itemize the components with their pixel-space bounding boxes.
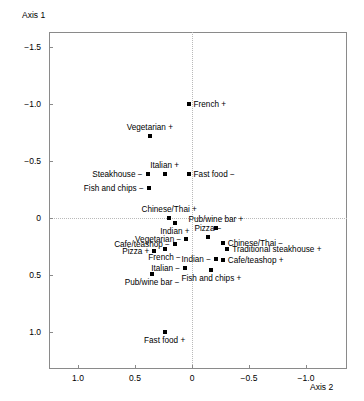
- data-point-marker: [163, 330, 167, 334]
- data-point-marker: [173, 242, 177, 246]
- data-point-marker: [221, 258, 225, 262]
- data-point-label: Fast food −: [194, 169, 235, 178]
- data-point-marker: [147, 186, 151, 190]
- data-point-label: Pub/wine bar +: [189, 215, 244, 224]
- y-tick-label: −1.5: [24, 42, 41, 52]
- data-point-label: Pub/wine bar −: [125, 278, 180, 287]
- y-tick-mark: [49, 275, 53, 276]
- y-tick-label: −0.5: [24, 156, 41, 166]
- plot-area: [49, 32, 347, 369]
- y-tick-mark: [49, 218, 53, 219]
- data-point-marker: [167, 216, 171, 220]
- x-tick-mark: [306, 365, 307, 369]
- data-point-label: Pizza −: [194, 224, 221, 233]
- y-tick-label: 0: [36, 213, 41, 223]
- data-point-label: Indian −: [182, 255, 211, 264]
- data-point-label: Cafe/teashop +: [228, 256, 284, 265]
- data-point-label: Traditional steakhouse +: [232, 244, 321, 253]
- data-point-label: Italian +: [150, 161, 179, 170]
- data-point-marker: [183, 266, 187, 270]
- y-tick-label: 1.0: [29, 327, 41, 337]
- data-point-marker: [206, 235, 210, 239]
- x-tick-mark: [249, 365, 250, 369]
- data-point-label: French −: [148, 253, 181, 262]
- data-point-label: Chinese/Thai +: [142, 205, 197, 214]
- x-tick-mark: [192, 365, 193, 369]
- correspondence-analysis-plot: Axis 1 Axis 2 −1.5−1.0−0.500.51.0 1.00.5…: [0, 0, 364, 401]
- y-tick-mark: [49, 104, 53, 105]
- data-point-marker: [225, 247, 229, 251]
- x-tick-label: −0.5: [241, 373, 258, 383]
- y-tick-mark: [49, 161, 53, 162]
- data-point-marker: [173, 221, 177, 225]
- data-point-label: Fish and chips +: [181, 274, 241, 283]
- data-point-label: Fish and chips −: [84, 184, 144, 193]
- x-tick-mark: [78, 365, 79, 369]
- vertical-reference-line: [192, 32, 193, 369]
- data-point-label: Italian −: [151, 264, 180, 273]
- x-tick-label: 1.0: [72, 373, 84, 383]
- data-point-marker: [146, 172, 150, 176]
- x-tick-label: 0: [190, 373, 195, 383]
- data-point-marker: [187, 172, 191, 176]
- data-point-marker: [184, 237, 188, 241]
- data-point-marker: [150, 272, 154, 276]
- data-point-label: French +: [194, 100, 227, 109]
- y-tick-mark: [49, 47, 53, 48]
- data-point-marker: [148, 134, 152, 138]
- data-point-marker: [163, 172, 167, 176]
- x-tick-label: 0.5: [129, 373, 141, 383]
- data-point-label: Pizza +: [122, 247, 149, 256]
- x-tick-mark: [135, 365, 136, 369]
- data-point-marker: [221, 241, 225, 245]
- data-point-label: Vegetarian +: [127, 123, 173, 132]
- data-point-marker: [214, 257, 218, 261]
- data-point-label: Steakhouse −: [92, 169, 142, 178]
- data-point-marker: [187, 102, 191, 106]
- y-tick-label: −1.0: [24, 99, 41, 109]
- data-point-marker: [163, 247, 167, 251]
- data-point-marker: [209, 268, 213, 272]
- x-tick-label: −1.0: [298, 373, 315, 383]
- data-point-label: Fast food +: [144, 336, 185, 345]
- y-tick-mark: [49, 332, 53, 333]
- x-axis-title: Axis 2: [310, 382, 333, 392]
- y-tick-label: 0.5: [29, 270, 41, 280]
- y-axis-title: Axis 1: [22, 10, 45, 20]
